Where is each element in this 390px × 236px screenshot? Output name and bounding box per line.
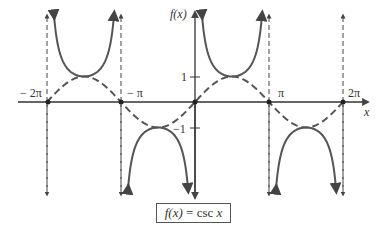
tick-label-neg-one: −1 [173,122,186,137]
tick-label-neg-two-pi: − 2π [20,86,42,101]
tick-label-pi: π [278,86,284,101]
tick-label-one: 1 [181,70,187,85]
caption-var: x [216,205,222,221]
csc-branch [54,15,114,76]
csc-graph [0,0,390,236]
function-caption: f(x) = csc x [156,203,231,223]
csc-branch [202,15,262,76]
tick-label-neg-pi: − π [127,86,143,101]
caption-eq: = [183,205,197,221]
y-axis-label: f(x) [170,7,187,22]
tick-label-two-pi: 2π [348,86,360,101]
caption-rhs: csc [197,205,217,221]
csc-branch [276,128,336,189]
caption-lhs: f(x) [165,205,183,221]
x-axis-label: x [364,105,369,120]
